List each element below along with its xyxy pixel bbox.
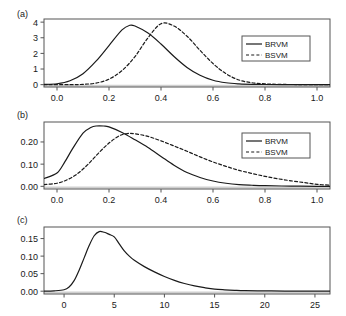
svg-text:0.0: 0.0 bbox=[51, 93, 64, 103]
svg-text:0.05: 0.05 bbox=[20, 269, 38, 279]
svg-text:0.15: 0.15 bbox=[20, 234, 38, 244]
svg-text:25: 25 bbox=[310, 300, 320, 310]
svg-text:0.2: 0.2 bbox=[103, 195, 116, 205]
svg-text:BSVM: BSVM bbox=[265, 51, 288, 60]
svg-text:0.6: 0.6 bbox=[207, 93, 220, 103]
panel-c-plot: 05101520250.000.050.100.15 bbox=[0, 210, 346, 316]
svg-text:4: 4 bbox=[33, 18, 38, 28]
panel-a-plot: 0.00.20.40.60.81.001234BRVMBSVM bbox=[0, 0, 346, 105]
svg-text:0.10: 0.10 bbox=[20, 252, 38, 262]
svg-text:1.0: 1.0 bbox=[311, 195, 324, 205]
figure-density-panels: (a) 0.00.20.40.60.81.001234BRVMBSVM (b) … bbox=[0, 0, 346, 316]
panel-b-plot: 0.00.20.40.60.81.00.000.100.20BRVMBSVM bbox=[0, 105, 346, 210]
svg-text:20: 20 bbox=[260, 300, 270, 310]
svg-text:BRVM: BRVM bbox=[265, 40, 288, 49]
panel-a: (a) 0.00.20.40.60.81.001234BRVMBSVM bbox=[0, 0, 346, 105]
svg-text:0.20: 0.20 bbox=[20, 137, 38, 147]
svg-text:3: 3 bbox=[33, 33, 38, 43]
panel-b: (b) 0.00.20.40.60.81.00.000.100.20BRVMBS… bbox=[0, 105, 346, 210]
svg-text:BSVM: BSVM bbox=[265, 148, 288, 157]
svg-text:BRVM: BRVM bbox=[265, 137, 288, 146]
svg-text:0.8: 0.8 bbox=[259, 195, 272, 205]
svg-text:0.4: 0.4 bbox=[155, 195, 168, 205]
svg-text:0.10: 0.10 bbox=[20, 160, 38, 170]
svg-text:0.4: 0.4 bbox=[155, 93, 168, 103]
svg-text:0.00: 0.00 bbox=[20, 287, 38, 297]
svg-text:0.8: 0.8 bbox=[259, 93, 272, 103]
svg-text:10: 10 bbox=[159, 300, 169, 310]
svg-text:0: 0 bbox=[62, 300, 67, 310]
svg-text:0.6: 0.6 bbox=[207, 195, 220, 205]
svg-text:0.00: 0.00 bbox=[20, 182, 38, 192]
panel-c: (c) 05101520250.000.050.100.15 bbox=[0, 210, 346, 316]
svg-text:2: 2 bbox=[33, 49, 38, 59]
svg-text:0.0: 0.0 bbox=[51, 195, 64, 205]
svg-text:0: 0 bbox=[33, 80, 38, 90]
svg-text:15: 15 bbox=[210, 300, 220, 310]
svg-text:5: 5 bbox=[112, 300, 117, 310]
svg-text:1.0: 1.0 bbox=[311, 93, 324, 103]
svg-text:0.2: 0.2 bbox=[103, 93, 116, 103]
svg-text:1: 1 bbox=[33, 64, 38, 74]
